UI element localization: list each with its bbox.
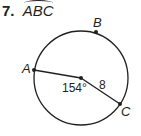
label-c: C	[121, 104, 130, 119]
radius-label: 8	[99, 78, 106, 92]
center-dot	[79, 76, 83, 80]
label-b: B	[93, 15, 102, 30]
central-angle-label: 154°	[62, 81, 87, 95]
point-b-dot	[94, 30, 98, 34]
label-a: A	[22, 61, 31, 76]
point-a-dot	[32, 68, 36, 72]
radius-a	[34, 70, 81, 78]
